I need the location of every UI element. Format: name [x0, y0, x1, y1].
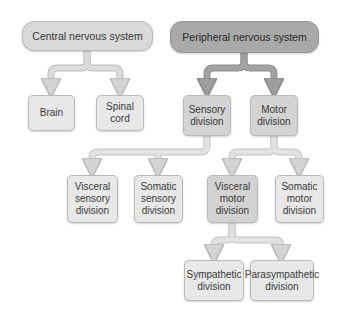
node-brain: Brain	[28, 95, 75, 131]
node-label: Motor division	[255, 104, 293, 128]
node-label: Visceral sensory division	[73, 181, 112, 217]
node-label: Visceral motor division	[213, 181, 252, 217]
node-somatic-sensory-division: Somatic sensory division	[134, 175, 183, 223]
visceral-motor-branch-arrows	[214, 222, 281, 254]
node-spinal-cord: Spinal cord	[96, 95, 144, 131]
node-sensory-division: Sensory division	[183, 95, 231, 136]
node-label: Somatic sensory division	[139, 181, 178, 217]
node-peripheral-nervous-system: Peripheral nervous system	[170, 21, 319, 53]
node-central-nervous-system: Central nervous system	[22, 21, 153, 51]
node-visceral-sensory-division: Visceral sensory division	[67, 175, 118, 223]
node-sympathetic-division: Sympathetic division	[184, 260, 244, 301]
node-somatic-motor-division: Somatic motor division	[275, 175, 324, 223]
node-label: Spinal cord	[105, 101, 135, 125]
node-motor-division: Motor division	[250, 95, 298, 136]
node-label: Somatic motor division	[280, 181, 319, 217]
node-parasympathetic-division: Parasympathetic division	[250, 260, 314, 301]
pns-branch-arrows	[207, 52, 274, 88]
sensory-branch-arrows	[92, 135, 207, 168]
node-label: Peripheral nervous system	[182, 31, 306, 43]
node-label: Brain	[40, 107, 63, 119]
motor-branch-arrows	[232, 135, 299, 168]
cns-branch-arrows	[51, 50, 120, 88]
node-visceral-motor-division: Visceral motor division	[207, 175, 258, 223]
node-label: Parasympathetic division	[245, 269, 319, 293]
node-label: Sympathetic division	[186, 269, 241, 293]
node-label: Sensory division	[187, 104, 227, 128]
node-label: Central nervous system	[32, 30, 142, 42]
